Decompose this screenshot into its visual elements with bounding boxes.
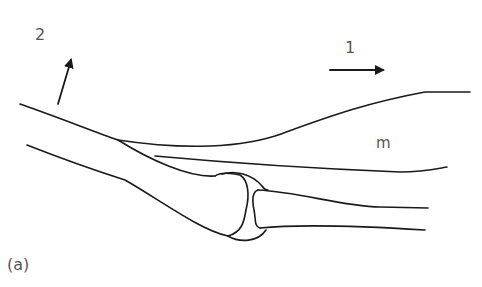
- joint-outline: [215, 173, 268, 241]
- arrow-2-label: 2: [35, 27, 45, 43]
- diagram-drawing: [0, 0, 482, 287]
- joint-diagram: 2 1 m (a): [0, 0, 482, 287]
- muscle-label: m: [376, 136, 391, 151]
- muscle-outline: [118, 92, 470, 172]
- panel-label: (a): [7, 257, 29, 273]
- arrow-2-icon: [58, 60, 71, 104]
- lower-limb-outline: [258, 190, 428, 230]
- upper-limb-outline: [20, 104, 228, 236]
- arrow-1-label: 1: [345, 40, 355, 56]
